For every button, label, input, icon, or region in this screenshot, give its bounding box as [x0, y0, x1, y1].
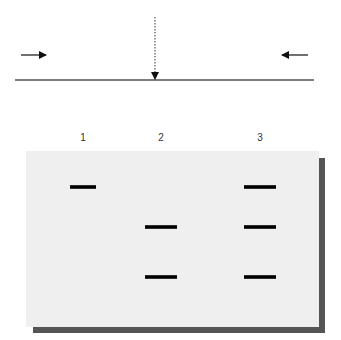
gel-shadow-bottom: [33, 327, 325, 333]
gel-panel: 123: [26, 132, 325, 333]
band-lane1-top: [70, 185, 96, 189]
top-panel: [15, 17, 314, 80]
band-lane3-bottom: [244, 275, 276, 279]
gel-diagram: 123: [0, 0, 341, 340]
gel-background: [26, 151, 319, 327]
band-lane2-bottom: [145, 275, 177, 279]
lane-label-3: 3: [257, 132, 263, 143]
gel-shadow-right: [319, 158, 325, 333]
band-lane3-middle: [244, 225, 276, 229]
lane-label-2: 2: [158, 132, 164, 143]
band-lane2-middle: [145, 225, 177, 229]
lane-labels: 123: [80, 132, 263, 143]
lane-label-1: 1: [80, 132, 86, 143]
band-lane3-top: [244, 185, 276, 189]
